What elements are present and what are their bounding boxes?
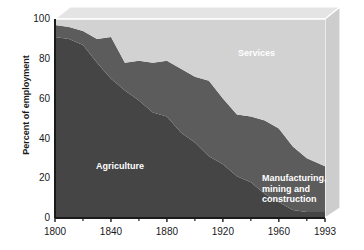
- series-label-agriculture: Agriculture: [96, 161, 144, 172]
- x-tick-1880: 1880: [147, 226, 187, 237]
- x-tick-1800: 1800: [35, 226, 75, 237]
- x-tick-1993: 1993: [305, 226, 345, 237]
- series-label-manufacturing: Manufacturing, mining and construction: [262, 173, 327, 205]
- chart-box-top-face: [55, 7, 340, 19]
- x-tick-1920: 1920: [203, 226, 243, 237]
- chart-container: Percent of employment 100 80 60 40 20 0 …: [0, 0, 364, 250]
- series-label-services: Services: [238, 48, 275, 59]
- stacked-area-chart: [0, 0, 364, 250]
- x-tick-1840: 1840: [91, 226, 131, 237]
- chart-box-right-face: [325, 7, 340, 218]
- x-tick-1960: 1960: [259, 226, 299, 237]
